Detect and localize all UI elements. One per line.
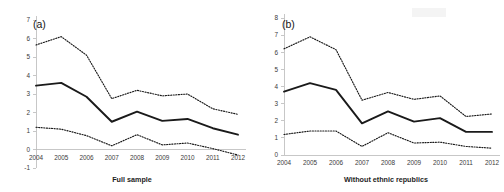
x-tick-label: 2006 bbox=[79, 154, 94, 161]
y-tick-label: 3 bbox=[274, 100, 278, 107]
x-tick-label: 2010 bbox=[433, 159, 448, 166]
panel-b-axis-title: Without ethnic republics bbox=[344, 175, 428, 184]
figure-root: -101234567200420052006200720082009201020… bbox=[0, 0, 504, 192]
y-tick-label: 3 bbox=[26, 90, 30, 97]
chart-panel-a: -101234567200420052006200720082009201020… bbox=[0, 0, 252, 192]
panel-b-axes: 0123456782004200520062007200820092010201… bbox=[274, 14, 500, 166]
panel-a-axis-title: Full sample bbox=[112, 175, 152, 184]
y-tick-label: -1 bbox=[24, 164, 30, 171]
y-tick-label: 5 bbox=[26, 53, 30, 60]
series-confidence-bound bbox=[284, 37, 492, 117]
x-tick-label: 2006 bbox=[329, 159, 344, 166]
series-point-estimate bbox=[284, 83, 492, 132]
x-tick-label: 2008 bbox=[130, 154, 145, 161]
panel-a-svg: -101234567200420052006200720082009201020… bbox=[0, 0, 252, 192]
x-tick-label: 2012 bbox=[485, 159, 500, 166]
y-tick-label: 4 bbox=[274, 83, 278, 90]
x-tick-label: 2004 bbox=[277, 159, 292, 166]
y-tick-label: 7 bbox=[274, 31, 278, 38]
y-tick-label: 4 bbox=[26, 72, 30, 79]
x-tick-label: 2009 bbox=[155, 154, 170, 161]
x-tick-label: 2004 bbox=[29, 154, 44, 161]
y-tick-label: 1 bbox=[274, 134, 278, 141]
y-tick-label: 5 bbox=[274, 66, 278, 73]
x-tick-label: 2007 bbox=[105, 154, 120, 161]
series-confidence-bound bbox=[36, 37, 238, 115]
y-tick-label: 0 bbox=[26, 146, 30, 153]
y-tick-label: 2 bbox=[26, 109, 30, 116]
x-tick-label: 2011 bbox=[459, 159, 473, 166]
x-tick-label: 2005 bbox=[303, 159, 318, 166]
x-tick-label: 2010 bbox=[180, 154, 195, 161]
series-confidence-bound bbox=[284, 131, 492, 148]
y-tick-label: 8 bbox=[274, 14, 278, 21]
panel-b-tag: (b) bbox=[282, 18, 295, 30]
y-tick-label: 6 bbox=[26, 35, 30, 42]
chart-panel-b: 0123456782004200520062007200820092010201… bbox=[252, 0, 504, 192]
x-tick-label: 2011 bbox=[206, 154, 220, 161]
x-tick-label: 2007 bbox=[355, 159, 370, 166]
x-tick-label: 2005 bbox=[54, 154, 69, 161]
panel-b-svg: 0123456782004200520062007200820092010201… bbox=[252, 0, 504, 192]
y-tick-label: 0 bbox=[274, 151, 278, 158]
scan-artifact bbox=[412, 8, 446, 17]
y-tick-label: 1 bbox=[26, 127, 30, 134]
x-tick-label: 2009 bbox=[407, 159, 422, 166]
panel-b-series bbox=[284, 37, 492, 148]
panel-a-tag: (a) bbox=[33, 18, 46, 30]
x-tick-label: 2008 bbox=[381, 159, 396, 166]
series-confidence-bound bbox=[36, 127, 238, 155]
panel-a-series bbox=[36, 37, 238, 155]
y-tick-label: 2 bbox=[274, 117, 278, 124]
y-tick-label: 7 bbox=[26, 16, 30, 23]
y-tick-label: 6 bbox=[274, 49, 278, 56]
